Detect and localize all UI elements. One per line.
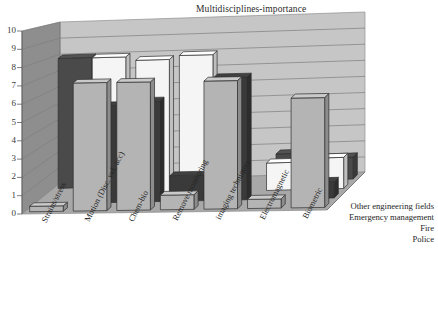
left-wall — [22, 22, 60, 214]
y-tick-label-9: 9 — [0, 43, 16, 53]
bar-top-face — [117, 78, 155, 82]
y-tick-label-1: 1 — [0, 190, 16, 200]
bar-side-face — [150, 78, 154, 210]
bar-top-face — [291, 93, 329, 98]
y-tick-label-0: 0 — [0, 208, 16, 218]
bar-side-face — [344, 153, 348, 188]
chart-figure: Multidisciplines-importance — [0, 0, 438, 334]
depth-label-emergency-management: Emergency management — [349, 212, 434, 222]
bar-top-face — [136, 56, 174, 61]
bar-side-face — [160, 97, 164, 201]
y-tick-label-2: 2 — [0, 171, 16, 181]
y-tick-label-8: 8 — [0, 62, 16, 72]
y-tick-label-6: 6 — [0, 98, 16, 108]
bar-top-face — [92, 53, 130, 58]
y-tick-label-10: 10 — [0, 25, 16, 35]
y-tick-label-5: 5 — [0, 117, 16, 127]
y-tick-label-3: 3 — [0, 153, 16, 163]
y-tick-label-4: 4 — [0, 135, 16, 145]
depth-label-other-engineering-fields: Other engineering fields — [350, 201, 434, 211]
y-axis — [17, 31, 22, 214]
depth-label-police: Police — [413, 234, 434, 244]
depth-label-fire: Fire — [420, 223, 434, 233]
bar-side-face — [325, 93, 329, 207]
y-tick-label-7: 7 — [0, 80, 16, 90]
bar-side-face — [247, 73, 251, 200]
bar-side-face — [169, 56, 173, 193]
chart-plot-area — [0, 0, 438, 334]
bar-police-2 — [117, 78, 155, 210]
bar-top-face — [73, 79, 111, 83]
bar-top-face — [204, 77, 242, 81]
bar-top-face — [179, 51, 217, 56]
